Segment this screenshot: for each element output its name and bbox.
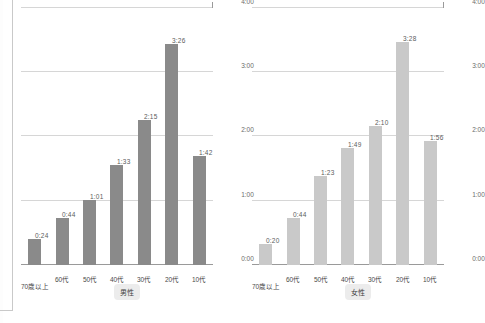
bar-row: 1:49 — [334, 8, 361, 265]
bar-row: 0:44 — [279, 8, 306, 265]
category-label-text: 70歳以上 — [252, 281, 280, 291]
chart-female: 女性 70歳以上60代50代40代30代20代10代 0:200:441:231… — [246, 0, 474, 323]
category-label-text: 20代 — [396, 274, 410, 284]
tick-label-text: 1:00 — [472, 191, 485, 198]
tick-label: 2:00 — [465, 124, 472, 137]
category-label: 10代 — [186, 267, 213, 323]
category-label-text: 40代 — [341, 274, 355, 284]
category-label-text: 60代 — [55, 274, 69, 284]
bar-row: 0:20 — [252, 8, 279, 265]
bar-40代: 1:33 — [110, 165, 123, 265]
bar-value-label: 0:44 — [293, 210, 306, 217]
category-label-text: 10代 — [423, 274, 437, 284]
bar-60代: 0:44 — [56, 218, 69, 265]
bar-value-label: 1:42 — [199, 148, 212, 155]
bar-value-label: 3:26 — [172, 37, 185, 44]
tick-label: 3:00 — [465, 60, 472, 73]
bar-10代: 1:56 — [424, 141, 437, 265]
bar-row: 3:26 — [158, 8, 185, 265]
bar-value-label: 1:49 — [348, 141, 361, 148]
chart-male: 男性 70歳以上60代50代40代30代20代10代 0:240:441:011… — [15, 0, 243, 323]
bar-20代: 3:26 — [165, 44, 178, 265]
bar-value-label: 0:20 — [266, 236, 279, 243]
bar-row: 1:56 — [417, 8, 444, 265]
bar-70歳以上: 0:24 — [28, 239, 41, 265]
bar-value-label: 1:01 — [90, 192, 103, 199]
bar-row: 2:15 — [131, 8, 158, 265]
bar-10代: 1:42 — [193, 156, 206, 265]
category-label: 50代 — [76, 267, 103, 323]
category-label: 20代 — [158, 267, 185, 323]
category-label: 10代 — [417, 267, 444, 323]
category-label: 30代 — [131, 267, 158, 323]
tick-label: 1:00 — [465, 188, 472, 201]
bar-row: 0:44 — [48, 8, 75, 265]
category-label-text: 50代 — [313, 274, 327, 284]
bar-value-label: 2:15 — [144, 113, 157, 120]
bar-50代: 1:23 — [314, 176, 327, 265]
category-label: 20代 — [389, 267, 416, 323]
tick-label: 2:00 — [234, 124, 241, 137]
tick-label-text: 2:00 — [472, 127, 485, 134]
bar-value-label: 3:28 — [403, 35, 416, 42]
bars-female: 0:200:441:231:492:103:281:56 — [252, 8, 444, 265]
category-label: 40代 — [103, 267, 130, 323]
category-label: 60代 — [48, 267, 75, 323]
bar-row: 3:28 — [389, 8, 416, 265]
tick-label: 3:00 — [234, 60, 241, 73]
category-label-text: 20代 — [165, 274, 179, 284]
bar-30代: 2:15 — [138, 120, 151, 265]
value-tick-labels-female: 0:001:002:003:004:00 — [444, 8, 472, 265]
category-label-text: 30代 — [368, 274, 382, 284]
tick-label: 0:00 — [465, 252, 472, 265]
bar-value-label: 1:23 — [321, 169, 334, 176]
bar-row: 1:33 — [103, 8, 130, 265]
bar-60代: 0:44 — [287, 218, 300, 265]
category-label: 40代 — [334, 267, 361, 323]
plot-area-male: 0:240:441:011:332:153:261:42 — [21, 8, 213, 265]
bar-value-label: 0:44 — [62, 210, 75, 217]
category-label-text: 70歳以上 — [21, 281, 49, 291]
bar-row: 0:24 — [21, 8, 48, 265]
bar-value-label: 1:56 — [430, 133, 443, 140]
category-label-text: 10代 — [192, 274, 206, 284]
bars-male: 0:240:441:011:332:153:261:42 — [21, 8, 213, 265]
bar-20代: 3:28 — [396, 42, 409, 265]
category-label: 30代 — [362, 267, 389, 323]
tick-label: 1:00 — [234, 188, 241, 201]
bar-value-label: 0:24 — [35, 232, 48, 239]
scan-artifact-frame — [0, 0, 13, 311]
tick-label: 0:00 — [234, 252, 241, 265]
category-label: 70歳以上 — [252, 267, 279, 323]
category-label: 60代 — [279, 267, 306, 323]
bar-value-label: 2:10 — [375, 118, 388, 125]
category-label: 50代 — [307, 267, 334, 323]
tick-label-text: 0:00 — [472, 255, 485, 262]
category-label-text: 40代 — [110, 274, 124, 284]
category-label-text: 50代 — [82, 274, 96, 284]
tick-label: 4:00 — [465, 0, 472, 8]
category-label-text: 60代 — [286, 274, 300, 284]
bar-row: 1:42 — [186, 8, 213, 265]
bar-50代: 1:01 — [83, 200, 96, 265]
tick-label-text: 4:00 — [472, 0, 485, 5]
bar-row: 2:10 — [362, 8, 389, 265]
bar-value-label: 1:33 — [117, 158, 130, 165]
bar-70歳以上: 0:20 — [259, 244, 272, 265]
bar-row: 1:23 — [307, 8, 334, 265]
tick-label: 4:00 — [234, 0, 241, 8]
category-axis-male: 70歳以上60代50代40代30代20代10代 — [21, 267, 213, 323]
value-tick-labels-male: 0:001:002:003:004:00 — [213, 8, 241, 265]
bar-row: 1:01 — [76, 8, 103, 265]
category-axis-female: 70歳以上60代50代40代30代20代10代 — [252, 267, 444, 323]
plot-area-female: 0:200:441:231:492:103:281:56 — [252, 8, 444, 265]
tick-label-text: 3:00 — [472, 62, 485, 69]
bar-30代: 2:10 — [369, 126, 382, 265]
category-label-text: 30代 — [137, 274, 151, 284]
bar-40代: 1:49 — [341, 148, 354, 265]
category-label: 70歳以上 — [21, 267, 48, 323]
